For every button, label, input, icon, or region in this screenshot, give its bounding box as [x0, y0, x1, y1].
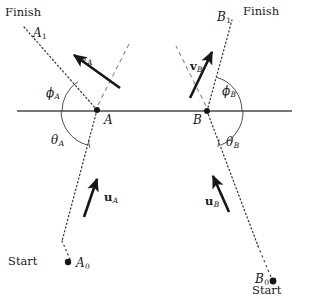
label-a1: A1 [33, 27, 47, 40]
label-vector-v-a: vA [80, 50, 93, 66]
point-a0-dot [65, 259, 71, 265]
start-label-right: Start [252, 285, 281, 297]
label-vector-u-a: uA [104, 188, 118, 204]
finish-label-right: Finish [243, 6, 279, 18]
label-angle-phi-a: ϕA [46, 84, 60, 100]
point-a-dot [94, 107, 100, 113]
label-angle-theta-b: θB [226, 133, 239, 149]
point-b-dot [204, 108, 210, 114]
label-a0: A0 [76, 257, 90, 270]
label-b1: B1 [217, 11, 231, 24]
label-angle-phi-b: ϕB [222, 82, 236, 98]
path-a-lower [62, 110, 97, 241]
diagram-canvas [0, 0, 309, 299]
vector-arrow-u-a [84, 179, 97, 217]
path-a-lower-tail [62, 241, 70, 259]
normal-line-a [98, 42, 130, 105]
start-label-left: Start [8, 256, 37, 268]
refraction-diagram: Finish A1 Finish B1 vA vB ϕA ϕB θA θB A … [0, 0, 309, 299]
label-point-a: A [104, 114, 113, 126]
label-vector-v-b: vB [190, 57, 203, 73]
finish-label-left: Finish [5, 7, 41, 19]
label-angle-theta-a: θA [51, 131, 64, 147]
angle-arc-theta-a [61, 111, 88, 145]
label-point-b: B [193, 114, 202, 126]
label-vector-u-b: uB [205, 192, 219, 208]
